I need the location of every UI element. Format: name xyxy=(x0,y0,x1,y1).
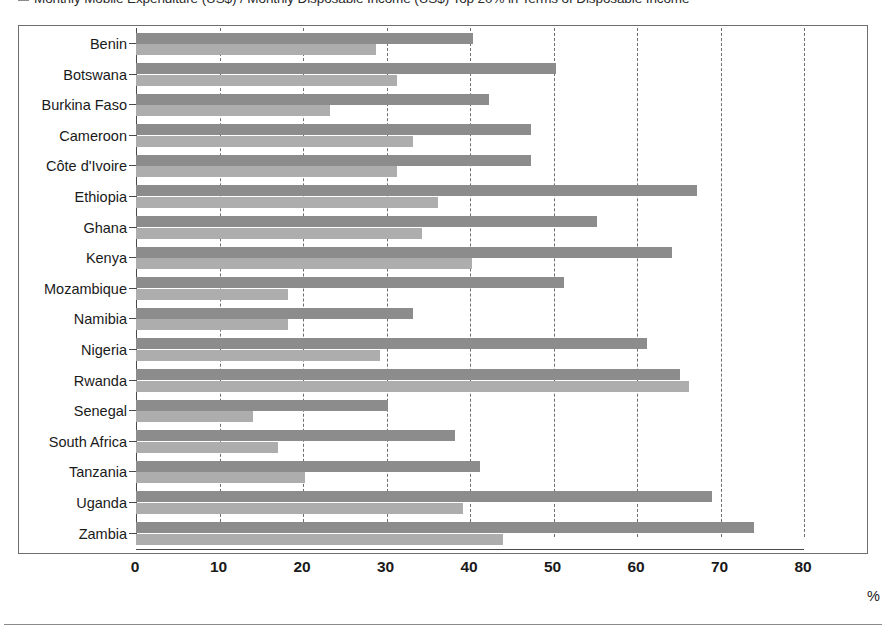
x-tick-label-20: 20 xyxy=(293,558,310,576)
x-tick-label-30: 30 xyxy=(377,558,394,576)
bar-group xyxy=(136,90,869,121)
bar-group xyxy=(136,335,869,366)
x-axis-unit-label: % xyxy=(867,588,880,604)
bar-series-2 xyxy=(136,411,253,422)
x-tick-label-60: 60 xyxy=(627,558,644,576)
category-label-cameroon: Cameroon xyxy=(19,121,127,152)
chart-rows: BeninBotswanaBurkina FasoCameroonCôte d'… xyxy=(19,29,869,549)
chart-row: Zambia xyxy=(19,519,869,550)
y-axis-tick xyxy=(129,74,136,75)
y-axis-tick xyxy=(129,318,136,319)
bar-series-1 xyxy=(136,277,564,288)
category-label-rwanda: Rwanda xyxy=(19,366,127,397)
category-label-ethiopia: Ethiopia xyxy=(19,182,127,213)
category-label-senegal: Senegal xyxy=(19,396,127,427)
bar-group xyxy=(136,488,869,519)
bar-group xyxy=(136,274,869,305)
bar-series-1 xyxy=(136,247,672,258)
bar-group xyxy=(136,182,869,213)
bar-series-2 xyxy=(136,197,438,208)
chart-plot-area: BeninBotswanaBurkina FasoCameroonCôte d'… xyxy=(18,25,868,554)
category-label-c-te-d-ivoire: Côte d'Ivoire xyxy=(19,151,127,182)
bar-group xyxy=(136,427,869,458)
y-axis-tick xyxy=(129,104,136,105)
bar-series-1 xyxy=(136,94,489,105)
x-tick-label-0: 0 xyxy=(131,558,140,576)
y-axis-tick xyxy=(129,380,136,381)
x-axis-tick-labels: 01020304050607080 xyxy=(18,558,868,580)
bar-series-2 xyxy=(136,381,689,392)
y-axis-tick xyxy=(129,410,136,411)
y-axis-tick xyxy=(129,441,136,442)
bar-group xyxy=(136,519,869,550)
chart-row: Uganda xyxy=(19,488,869,519)
bar-series-2 xyxy=(136,258,472,269)
y-axis-tick xyxy=(129,257,136,258)
category-label-kenya: Kenya xyxy=(19,243,127,274)
bar-series-2 xyxy=(136,503,463,514)
bar-group xyxy=(136,457,869,488)
category-label-ghana: Ghana xyxy=(19,213,127,244)
bar-series-1 xyxy=(136,461,480,472)
x-axis-line xyxy=(136,549,804,550)
category-label-burkina-faso: Burkina Faso xyxy=(19,90,127,121)
y-axis-tick xyxy=(129,288,136,289)
y-axis-tick xyxy=(129,135,136,136)
category-label-benin: Benin xyxy=(19,29,127,60)
category-label-botswana: Botswana xyxy=(19,60,127,91)
chart-row: Ethiopia xyxy=(19,182,869,213)
bar-series-2 xyxy=(136,442,278,453)
bar-series-1 xyxy=(136,155,531,166)
y-axis-tick xyxy=(129,502,136,503)
bar-series-2 xyxy=(136,350,380,361)
x-tick-label-40: 40 xyxy=(460,558,477,576)
bar-series-1 xyxy=(136,216,597,227)
bar-series-1 xyxy=(136,369,680,380)
chart-row: Benin xyxy=(19,29,869,60)
bar-series-2 xyxy=(136,105,330,116)
legend-label: Monthly Mobile Expenditure (US$) / Month… xyxy=(34,0,689,6)
y-axis-tick xyxy=(129,43,136,44)
bar-series-1 xyxy=(136,124,531,135)
bar-series-1 xyxy=(136,185,697,196)
category-label-mozambique: Mozambique xyxy=(19,274,127,305)
bar-series-1 xyxy=(136,522,754,533)
x-tick-label-50: 50 xyxy=(544,558,561,576)
bar-series-1 xyxy=(136,308,413,319)
category-label-zambia: Zambia xyxy=(19,519,127,550)
chart-row: Mozambique xyxy=(19,274,869,305)
bar-series-2 xyxy=(136,319,288,330)
category-label-nigeria: Nigeria xyxy=(19,335,127,366)
category-label-tanzania: Tanzania xyxy=(19,457,127,488)
chart-row: Cameroon xyxy=(19,121,869,152)
y-axis-tick xyxy=(129,471,136,472)
y-axis-tick xyxy=(129,196,136,197)
x-tick-label-70: 70 xyxy=(711,558,728,576)
bar-series-1 xyxy=(136,430,455,441)
bar-group xyxy=(136,213,869,244)
x-tick-label-10: 10 xyxy=(210,558,227,576)
bar-series-1 xyxy=(136,491,712,502)
category-label-uganda: Uganda xyxy=(19,488,127,519)
y-axis-tick xyxy=(129,227,136,228)
bar-series-2 xyxy=(136,289,288,300)
bar-series-2 xyxy=(136,228,422,239)
category-label-south-africa: South Africa xyxy=(19,427,127,458)
bar-group xyxy=(136,243,869,274)
chart-row: Botswana xyxy=(19,60,869,91)
chart-legend: Monthly Mobile Expenditure (US$) / Month… xyxy=(0,0,886,13)
chart-row: South Africa xyxy=(19,427,869,458)
y-axis-tick xyxy=(129,165,136,166)
bar-series-1 xyxy=(136,400,388,411)
bar-series-2 xyxy=(136,75,397,86)
bar-series-2 xyxy=(136,136,413,147)
category-label-namibia: Namibia xyxy=(19,304,127,335)
bar-series-2 xyxy=(136,44,376,55)
bar-group xyxy=(136,396,869,427)
bar-group xyxy=(136,60,869,91)
bar-series-2 xyxy=(136,166,397,177)
bar-group xyxy=(136,121,869,152)
legend-swatch-icon xyxy=(18,0,29,1)
chart-row: Côte d'Ivoire xyxy=(19,151,869,182)
chart-row: Senegal xyxy=(19,396,869,427)
